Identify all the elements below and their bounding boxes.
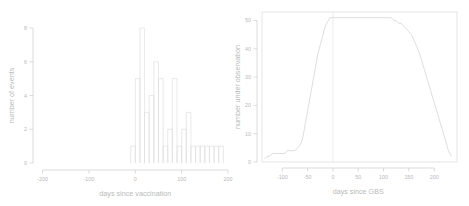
x-tick-label: 50 xyxy=(355,174,361,180)
histogram-bar xyxy=(177,146,182,163)
y-tick-label: 0 xyxy=(24,160,27,166)
x-axis-label: days since GBS xyxy=(333,187,384,196)
x-tick-label: -100 xyxy=(277,174,288,180)
y-tick-label: 10 xyxy=(245,131,251,137)
y-tick-label: 6 xyxy=(24,59,27,65)
histogram-bar xyxy=(200,146,205,163)
histogram-bar xyxy=(135,79,140,163)
histogram-bar xyxy=(158,79,163,163)
x-axis-label: days since vaccination xyxy=(99,189,171,198)
y-tick-label: 2 xyxy=(24,126,27,132)
histogram-bar xyxy=(140,28,145,163)
histogram-svg: -200-1000100200 02468 days since vaccina… xyxy=(0,0,234,206)
x-axis-ticks: -200-1000100200 xyxy=(37,170,232,182)
x-tick-label: 0 xyxy=(134,176,137,182)
x-tick-label: -100 xyxy=(84,176,95,182)
histogram-bar xyxy=(219,146,224,163)
x-tick-label: 200 xyxy=(430,174,439,180)
histogram-bar xyxy=(154,62,159,163)
histogram-bar xyxy=(172,79,177,163)
histogram-bar xyxy=(149,96,154,164)
histogram-bar xyxy=(145,112,150,163)
figure-container: -200-1000100200 02468 days since vaccina… xyxy=(0,0,469,206)
y-axis-label: number under observation xyxy=(235,45,242,129)
x-tick-label: -50 xyxy=(304,174,312,180)
x-tick-label: 100 xyxy=(379,174,388,180)
histogram-bar xyxy=(205,146,210,163)
histogram-bar xyxy=(196,146,201,163)
y-tick-label: 20 xyxy=(245,102,251,108)
histogram-bars xyxy=(131,28,224,163)
histogram-bar xyxy=(182,129,187,163)
y-tick-label: 8 xyxy=(24,25,27,31)
y-tick-label: 40 xyxy=(245,46,251,52)
x-tick-label: 100 xyxy=(177,176,186,182)
panel-observation-curve: -100-50050100150200 01020304050 days sin… xyxy=(235,0,469,206)
x-tick-label: 0 xyxy=(331,174,334,180)
histogram-bar xyxy=(163,146,168,163)
histogram-bar xyxy=(186,112,191,163)
y-axis-ticks: 02468 xyxy=(24,25,33,166)
observation-curve-svg: -100-50050100150200 01020304050 days sin… xyxy=(235,0,469,206)
y-tick-label: 0 xyxy=(248,159,251,165)
histogram-bar xyxy=(191,146,196,163)
x-tick-label: -200 xyxy=(37,176,48,182)
x-tick-label: 150 xyxy=(404,174,413,180)
y-tick-label: 30 xyxy=(245,74,251,80)
histogram-bar xyxy=(209,146,214,163)
histogram-bar xyxy=(214,146,219,163)
x-axis-ticks: -100-50050100150200 xyxy=(277,168,439,180)
y-tick-label: 50 xyxy=(245,17,251,23)
y-axis-label: number of events xyxy=(7,67,16,123)
y-axis-ticks: 01020304050 xyxy=(245,17,257,165)
y-tick-label: 4 xyxy=(24,93,27,99)
histogram-bar xyxy=(131,146,136,163)
plot-frame xyxy=(262,12,457,162)
observation-curve-line xyxy=(265,18,452,160)
histogram-bar xyxy=(168,129,173,163)
x-tick-label: 200 xyxy=(224,176,233,182)
panel-histogram: -200-1000100200 02468 days since vaccina… xyxy=(0,0,234,206)
